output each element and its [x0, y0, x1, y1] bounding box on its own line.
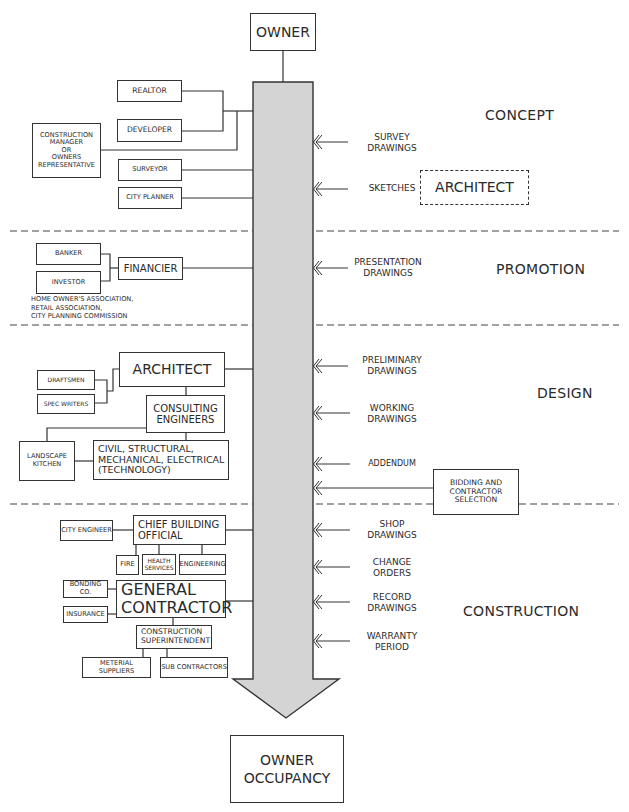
doc-working-drawings: WORKING DRAWINGS: [350, 403, 434, 426]
material-suppliers-box: METERIAL SUPPLIERS: [82, 657, 151, 678]
doc-preliminary-drawings: PRELIMINARY DRAWINGS: [350, 355, 434, 378]
phase-construction: CONSTRUCTION: [463, 603, 579, 619]
bonding-box: BONDING CO.: [63, 580, 108, 598]
general-contractor-box: GENERAL CONTRACTOR: [116, 580, 226, 618]
city-planner-box: CITY PLANNER: [118, 187, 182, 209]
superintendent-box: CONSTRUCTION SUPERINTENDENT: [136, 625, 212, 649]
chief-building-official-box: CHIEF BUILDING OFFICIAL: [133, 515, 226, 545]
process-arrow: [233, 82, 339, 718]
associations-note: HOME OWNER'S ASSOCIATION, RETAIL ASSOCIA…: [31, 295, 133, 321]
architect-box: ARCHITECT: [119, 352, 225, 387]
consulting-engineers-box: CONSULTING ENGINEERS: [146, 395, 225, 433]
insurance-box: INSURANCE: [63, 606, 108, 623]
engineering-box: ENGINEERING: [179, 554, 226, 575]
investor-box: INVESTOR: [36, 271, 101, 294]
spec-writers-box: SPEC WRITERS: [37, 394, 95, 414]
banker-box: BANKER: [36, 243, 101, 265]
draftsmen-box: DRAFTSMEN: [37, 370, 95, 390]
doc-addendum: ADDENDUM: [350, 459, 434, 469]
doc-record-drawings: RECORD DRAWINGS: [350, 592, 434, 615]
construction-manager-box: CONSTRUCTION MANAGER OR OWNERS REPRESENT…: [32, 123, 101, 178]
sub-contractors-box: SUB CONTRACTORS: [160, 657, 228, 678]
phase-promotion: PROMOTION: [496, 261, 585, 277]
fire-box: FIRE: [116, 555, 139, 575]
phase-design: DESIGN: [537, 385, 593, 401]
realtor-box: REALTOR: [117, 80, 182, 102]
doc-presentation-drawings: PRESENTATION DRAWINGS: [346, 257, 430, 280]
doc-survey-drawings: SURVEY DRAWINGS: [350, 132, 434, 155]
doc-change-orders: CHANGE ORDERS: [350, 557, 434, 580]
phase-concept: CONCEPT: [485, 107, 554, 123]
financier-box: FINANCIER: [118, 257, 183, 280]
owner-occupancy-box: OWNER OCCUPANCY: [230, 735, 344, 803]
bidding-box: BIDDING AND CONTRACTOR SELECTION: [433, 469, 519, 515]
doc-shop-drawings: SHOP DRAWINGS: [350, 519, 434, 542]
developer-box: DEVELOPER: [117, 119, 182, 142]
technology-box: CIVIL, STRUCTURAL, MECHANICAL, ELECTRICA…: [93, 440, 229, 480]
city-engineer-box: CITY ENGINEER: [60, 520, 113, 541]
doc-sketches: SKETCHES: [350, 183, 434, 194]
architect-dashed-box: ARCHITECT: [420, 170, 529, 205]
surveyor-box: SURVEYOR: [118, 159, 182, 181]
health-services-box: HEALTH SERVICES: [142, 554, 176, 575]
landscape-kitchen-box: LANDSCAPE KITCHEN: [19, 441, 75, 481]
doc-warranty-period: WARRANTY PERIOD: [350, 631, 434, 654]
owner-box: OWNER: [250, 13, 316, 51]
